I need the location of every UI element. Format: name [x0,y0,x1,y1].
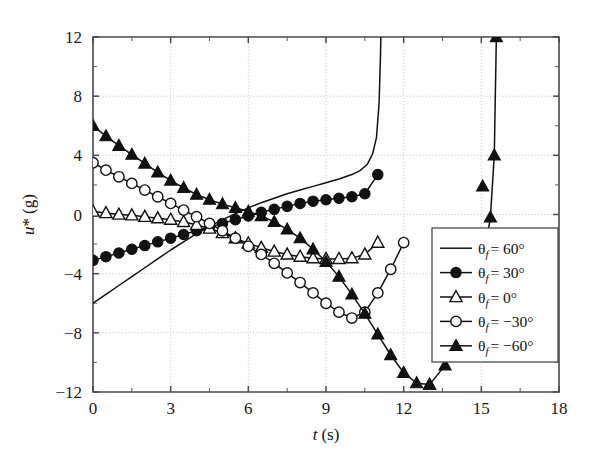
data-point-marker-3-11 [230,233,240,243]
data-point-marker-1-11 [230,214,240,224]
data-point-marker-3-14 [269,258,279,268]
data-point-marker-1-21 [360,189,370,199]
data-point-marker-3-3 [127,178,137,188]
data-point-marker-1-19 [334,193,344,203]
data-point-marker-3-24 [398,237,408,247]
data-point-marker-3-23 [386,264,396,274]
data-point-marker-1-17 [308,196,318,206]
y-tick-label: −4 [64,265,83,284]
figure-container: 0369121518−12−8−404812 t(s)u*(g) θf= 60°… [0,0,596,470]
data-point-marker-3-6 [165,198,175,208]
data-point-marker-1-1 [101,251,111,261]
data-point-marker-3-1 [101,165,111,175]
data-point-marker-3-16 [295,277,305,287]
data-point-marker-3-2 [114,172,124,182]
data-point-marker-1-22 [373,169,383,179]
y-tick-label: −12 [55,383,82,402]
data-point-marker-1-18 [321,195,331,205]
x-tick-label: 9 [322,399,331,418]
data-point-marker-1-20 [347,192,357,202]
x-tick-label: 6 [244,399,253,418]
data-point-marker-3-8 [191,212,201,222]
data-point-marker-3-18 [321,298,331,308]
data-point-marker-3-9 [204,218,214,228]
x-tick-label: 18 [551,399,568,418]
y-tick-label: 0 [74,206,83,225]
data-point-marker-3-5 [153,192,163,202]
data-point-marker-1-7 [178,229,188,239]
x-tick-label: 12 [395,399,412,418]
data-point-marker-1-16 [295,198,305,208]
data-point-marker-3-15 [282,268,292,278]
data-point-marker-1-2 [114,248,124,258]
chart-plot: 0369121518−12−8−404812 t(s)u*(g) θf= 60°… [0,0,596,470]
data-point-marker-3-22 [373,288,383,298]
data-point-marker-3-4 [140,185,150,195]
data-point-marker-1-3 [127,244,137,254]
x-tick-label: 3 [166,399,175,418]
y-tick-label: 8 [74,87,83,106]
legend-label-1: θf= 30° [478,264,525,284]
x-tick-label: 0 [89,399,98,418]
data-point-marker-3-10 [217,226,227,236]
data-point-marker-1-6 [165,233,175,243]
y-tick-label: −8 [64,324,82,343]
y-tick-label: 12 [65,28,82,47]
legend-filled-circle-icon [451,267,461,277]
data-point-marker-3-12 [243,241,253,251]
legend-label-0: θf= 60° [478,240,525,260]
data-point-marker-1-5 [153,237,163,247]
y-axis-title: u*(g) [19,194,38,235]
data-point-marker-3-20 [347,313,357,323]
data-point-marker-1-4 [140,240,150,250]
data-point-marker-3-7 [178,205,188,215]
data-point-marker-3-19 [334,307,344,317]
legend-open-circle-icon [451,316,461,326]
data-point-marker-3-13 [256,249,266,259]
data-point-marker-1-15 [282,201,292,211]
chart-legend: θf= 60°θf= 30°θf= 0°θf= −30°θf= −60° [432,228,558,362]
x-axis-title: t(s) [313,425,340,444]
y-tick-label: 4 [74,146,83,165]
x-tick-label: 15 [473,399,490,418]
data-point-marker-1-14 [269,204,279,214]
data-point-marker-3-17 [308,288,318,298]
